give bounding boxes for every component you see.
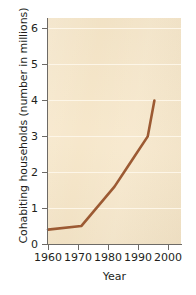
plot-area [48, 18, 181, 244]
x-tick-label-1980: 1980 [91, 252, 125, 263]
x-axis-title: Year [48, 270, 181, 283]
y-tick-6 [42, 28, 47, 29]
line-chart-figure: 6 5 4 3 2 1 0 1960 1970 1980 1990 2000 C… [0, 0, 196, 295]
y-tick-0 [42, 244, 47, 245]
x-axis-line [47, 244, 182, 245]
x-tick-2000 [168, 245, 169, 250]
y-axis-line [47, 18, 48, 245]
x-tick-1970 [78, 245, 79, 250]
x-tick-label-1990: 1990 [121, 252, 155, 263]
y-tick-4 [42, 100, 47, 101]
x-tick-1980 [108, 245, 109, 250]
data-series-line [48, 18, 181, 244]
series-polyline [48, 101, 154, 230]
x-tick-1960 [48, 245, 49, 250]
y-axis-title: Cohabiting households (number in million… [17, 14, 30, 244]
x-tick-label-1960: 1960 [31, 252, 65, 263]
y-tick-3 [42, 136, 47, 137]
y-tick-5 [42, 64, 47, 65]
y-tick-2 [42, 172, 47, 173]
y-tick-1 [42, 208, 47, 209]
x-tick-label-1970: 1970 [61, 252, 95, 263]
x-tick-label-2000: 2000 [151, 252, 185, 263]
x-tick-1990 [138, 245, 139, 250]
